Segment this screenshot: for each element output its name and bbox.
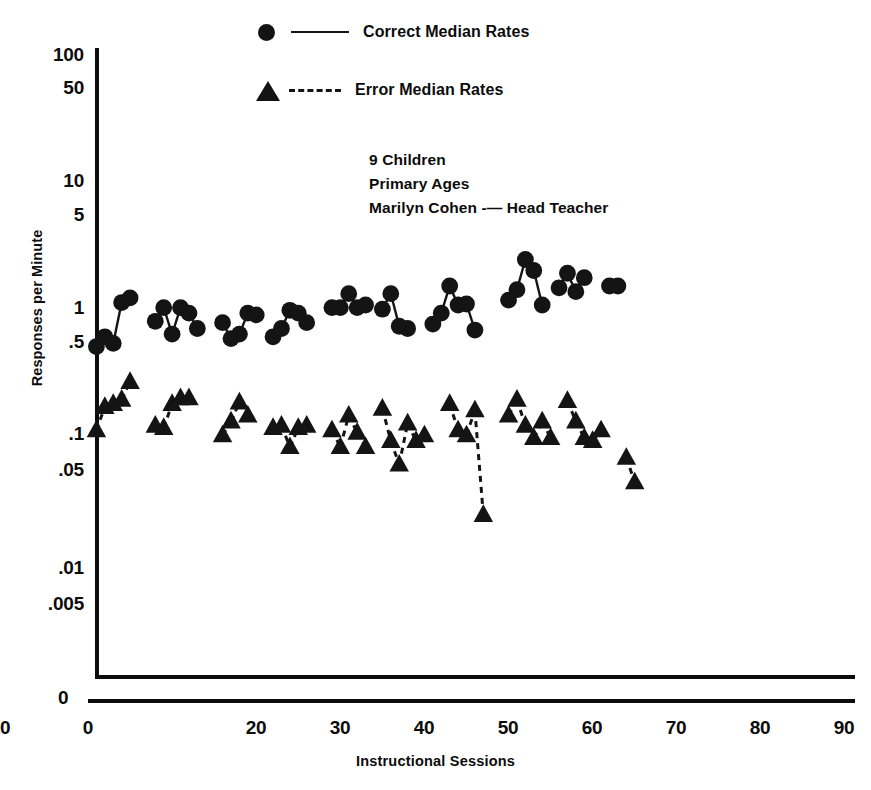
y-tick-label: 10	[8, 170, 84, 192]
x-tick-label: 70	[646, 717, 706, 739]
y-tick-label: 50	[8, 77, 84, 99]
data-point	[558, 390, 578, 408]
data-point	[499, 405, 519, 423]
y-tick-label: .05	[8, 459, 84, 481]
data-point	[221, 411, 241, 429]
annotation-line-2: Primary Ages	[369, 172, 608, 196]
data-point	[231, 326, 248, 343]
solid-line-icon	[291, 31, 349, 33]
chart-plot-area	[0, 0, 871, 790]
x-tick-label: 80	[730, 717, 790, 739]
data-point	[610, 278, 627, 295]
data-point	[625, 472, 645, 490]
data-point	[474, 504, 494, 522]
data-point	[357, 297, 374, 314]
data-point	[332, 299, 349, 316]
data-point	[87, 420, 107, 438]
x-tick-label: 50	[478, 717, 538, 739]
y-tick-label: 5	[8, 204, 84, 226]
x-tick-label: 40	[394, 717, 454, 739]
data-point	[298, 314, 315, 331]
data-point	[389, 454, 409, 472]
data-point	[230, 392, 250, 410]
data-point	[373, 398, 393, 416]
legend-label-error: Error Median Rates	[355, 81, 504, 99]
data-point	[551, 279, 568, 296]
data-point	[617, 447, 637, 465]
data-point	[248, 307, 265, 324]
data-point	[566, 411, 586, 429]
data-point	[347, 422, 367, 440]
y-tick-label: .1	[8, 423, 84, 445]
x-tick-label: 0	[58, 717, 118, 739]
data-point	[516, 415, 536, 433]
circle-marker-icon	[255, 18, 289, 46]
data-point	[122, 290, 139, 307]
data-point	[164, 326, 181, 343]
y-tick-label: 1	[8, 297, 84, 319]
legend-label-correct: Correct Median Rates	[363, 23, 530, 41]
triangle-marker-icon	[255, 76, 289, 104]
data-point	[155, 299, 172, 316]
data-point	[591, 420, 611, 438]
data-point	[532, 411, 552, 429]
legend-item-correct: Correct Median Rates	[255, 18, 530, 46]
y-axis-title: Responses per Minute	[29, 188, 45, 428]
data-point	[382, 285, 399, 302]
data-point	[399, 320, 416, 337]
data-point	[273, 320, 290, 337]
data-point	[509, 281, 526, 298]
data-point	[534, 297, 551, 314]
data-point	[433, 305, 450, 322]
data-point	[398, 413, 418, 431]
data-point	[567, 283, 584, 300]
data-point	[440, 393, 460, 411]
data-point	[214, 314, 231, 331]
data-point	[467, 322, 484, 339]
data-point	[458, 296, 475, 313]
data-point	[576, 269, 593, 286]
chart-root: 100 50 10 5 1 .5 .1 .05 .01 .005 0 0 10 …	[0, 0, 871, 790]
annotation-line-1: 9 Children	[369, 148, 608, 172]
data-point	[120, 371, 140, 389]
x-tick-label: 10	[0, 717, 30, 739]
y-tick-label: .5	[8, 331, 84, 353]
data-point	[340, 285, 357, 302]
data-point	[374, 301, 391, 318]
data-point	[105, 335, 122, 352]
y-tick-label: .01	[8, 557, 84, 579]
data-point	[280, 436, 300, 454]
data-point	[441, 278, 458, 295]
y-zero-label: 0	[58, 687, 69, 709]
data-point	[322, 420, 342, 438]
data-point	[181, 305, 198, 322]
data-point	[189, 320, 206, 337]
data-point	[331, 436, 351, 454]
data-point	[525, 262, 542, 279]
data-point	[339, 405, 359, 423]
series-points-correct	[88, 251, 626, 355]
y-tick-label: .005	[8, 593, 84, 615]
dashed-line-icon	[289, 89, 341, 92]
data-point	[507, 389, 527, 407]
x-tick-label: 90	[814, 717, 871, 739]
x-tick-label: 30	[310, 717, 370, 739]
data-point	[541, 427, 561, 445]
y-tick-label: 100	[8, 44, 84, 66]
x-axis-title: Instructional Sessions	[0, 753, 871, 769]
annotation-line-3: Marilyn Cohen -— Head Teacher	[369, 196, 608, 220]
series-points-error	[87, 371, 645, 522]
legend-item-error: Error Median Rates	[255, 76, 504, 104]
data-point	[381, 430, 401, 448]
data-point	[465, 400, 485, 418]
x-tick-label: 60	[562, 717, 622, 739]
x-tick-label: 20	[226, 717, 286, 739]
chart-annotation: 9 Children Primary Ages Marilyn Cohen -—…	[369, 148, 608, 220]
data-point	[559, 265, 576, 282]
